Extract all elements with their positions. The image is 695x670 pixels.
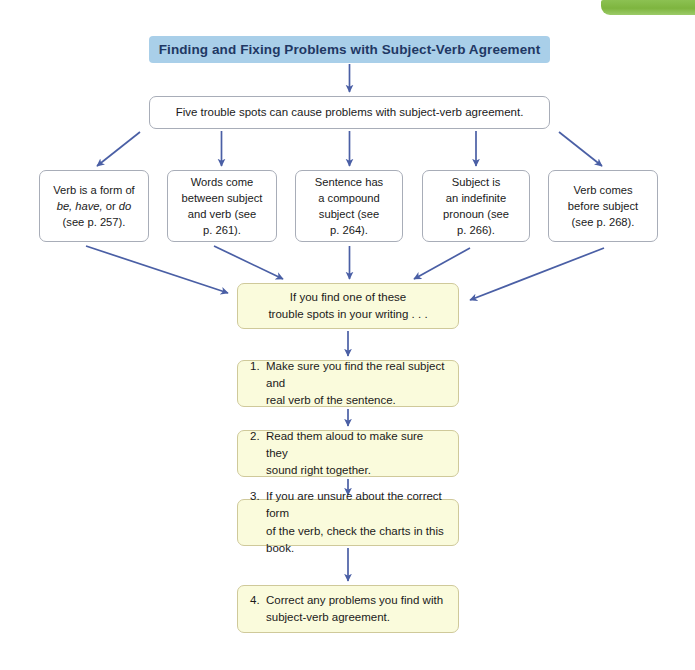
step-row-2: 2. Read them aloud to make sure they sou… xyxy=(250,428,448,480)
step-text-3: If you are unsure about the correct form… xyxy=(266,488,448,557)
trouble-spot-box-5: Verb comesbefore subject(see p. 268). xyxy=(548,170,658,242)
converge-condition-box: If you find one of these trouble spots i… xyxy=(237,283,459,329)
step-row-4: 4. Correct any problems you find with su… xyxy=(250,592,443,627)
step-3-line-1: If you are unsure about the correct form xyxy=(266,490,442,519)
page-title: Finding and Fixing Problems with Subject… xyxy=(159,42,541,57)
step-row-3: 3. If you are unsure about the correct f… xyxy=(250,488,448,557)
chapter-tab-decoration xyxy=(601,0,695,15)
trouble-spot-text-5: Verb comesbefore subject(see p. 268). xyxy=(568,182,638,231)
step-text-4: Correct any problems you find with subje… xyxy=(266,592,443,627)
step-number-3: 3. xyxy=(250,488,266,505)
page-title-banner: Finding and Fixing Problems with Subject… xyxy=(149,36,550,63)
trouble-spot-box-4: Subject isan indefinitepronoun (seep. 26… xyxy=(422,170,530,242)
step-box-3: 3. If you are unsure about the correct f… xyxy=(237,499,459,546)
flowchart-page: Finding and Fixing Problems with Subject… xyxy=(0,0,695,670)
step-number-2: 2. xyxy=(250,428,266,445)
trouble-spot-box-2: Words comebetween subjectand verb (seep.… xyxy=(167,170,277,242)
trouble-spot-text-1: Verb is a form ofbe, have, or do(see p. … xyxy=(53,182,134,231)
step-3-line-2: of the verb, check the charts in this bo… xyxy=(266,525,444,554)
trouble-spot-text-2: Words comebetween subjectand verb (seep.… xyxy=(182,174,263,239)
converge-condition-text: If you find one of these trouble spots i… xyxy=(268,289,427,322)
converge-line-2: trouble spots in your writing . . . xyxy=(268,308,427,320)
step-box-2: 2. Read them aloud to make sure they sou… xyxy=(237,430,459,477)
trouble-spot-text-3: Sentence hasa compoundsubject (seep. 264… xyxy=(315,174,383,239)
step-row-1: 1. Make sure you find the real subject a… xyxy=(250,358,448,410)
step-text-1: Make sure you find the real subject and … xyxy=(266,358,448,410)
step-box-4: 4. Correct any problems you find with su… xyxy=(237,585,459,633)
step-text-2: Read them aloud to make sure they sound … xyxy=(266,428,448,480)
step-2-line-2: sound right together. xyxy=(266,464,371,476)
intro-statement-box: Five trouble spots can cause problems wi… xyxy=(149,96,550,129)
trouble-spot-box-1: Verb is a form ofbe, have, or do(see p. … xyxy=(39,170,149,242)
step-1-line-1: Make sure you find the real subject and xyxy=(266,360,444,389)
step-number-4: 4. xyxy=(250,592,266,609)
step-number-1: 1. xyxy=(250,358,266,375)
step-4-line-1: Correct any problems you find with xyxy=(266,594,443,606)
trouble-spot-text-4: Subject isan indefinitepronoun (seep. 26… xyxy=(443,174,509,239)
step-1-line-2: real verb of the sentence. xyxy=(266,394,396,406)
intro-statement-text: Five trouble spots can cause problems wi… xyxy=(176,104,524,121)
trouble-spot-box-3: Sentence hasa compoundsubject (seep. 264… xyxy=(295,170,403,242)
converge-line-1: If you find one of these xyxy=(290,291,406,303)
step-4-line-2: subject-verb agreement. xyxy=(266,611,390,623)
step-2-line-1: Read them aloud to make sure they xyxy=(266,430,423,459)
step-box-1: 1. Make sure you find the real subject a… xyxy=(237,360,459,407)
